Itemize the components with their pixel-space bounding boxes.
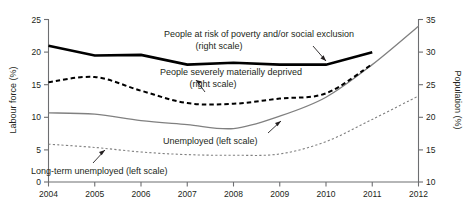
right-axis — [419, 19, 424, 182]
x-tick-2004: 2004 — [39, 189, 58, 199]
x-tick-2008: 2008 — [224, 189, 243, 199]
x-tick-2005: 2005 — [85, 189, 104, 199]
left-tick-15: 15 — [32, 80, 42, 90]
right-tick-25: 25 — [426, 80, 436, 90]
left-tick-20: 20 — [32, 47, 42, 57]
annotation-unemployed-label: Unemployed (left scale) — [163, 136, 258, 146]
x-axis — [49, 182, 419, 187]
left-axis-tick-labels: 25 20 15 10 5 0 — [32, 15, 42, 188]
x-axis-tick-labels: 2004 2005 2006 2007 2008 2009 2010 2011 … — [39, 189, 428, 199]
x-tick-2007: 2007 — [178, 189, 197, 199]
annotation-poverty-line1: People at risk of poverty and/or social … — [164, 29, 354, 39]
right-tick-15: 15 — [426, 145, 436, 155]
right-tick-10: 10 — [426, 177, 436, 187]
annotation-longterm-label: Long-term unemployed (left scale) — [31, 166, 168, 176]
right-tick-30: 30 — [426, 47, 436, 57]
annotation-poverty-line2: (right scale) — [195, 41, 242, 51]
left-axis-title: Labour force (%) — [8, 66, 18, 133]
left-tick-0: 0 — [36, 177, 41, 187]
left-tick-25: 25 — [32, 15, 42, 25]
line-chart: 25 20 15 10 5 0 Labour force (%) 35 30 2… — [0, 0, 467, 206]
right-axis-tick-labels: 35 30 25 20 15 10 — [426, 15, 436, 188]
left-tick-10: 10 — [32, 112, 42, 122]
right-axis-title: Population (%) — [453, 70, 463, 129]
x-tick-2011: 2011 — [363, 189, 382, 199]
annotation-deprived-line1: People severely materially deprived — [160, 67, 302, 77]
series-long-term-unemployed — [49, 96, 419, 155]
chart-container: 25 20 15 10 5 0 Labour force (%) 35 30 2… — [0, 0, 467, 206]
annotation-deprived: People severely materially deprived (rig… — [160, 67, 302, 89]
right-tick-35: 35 — [426, 15, 436, 25]
annotation-deprived-line2: (right scale) — [189, 79, 236, 89]
arrowhead-longterm — [99, 150, 105, 155]
left-tick-5: 5 — [36, 145, 41, 155]
right-tick-20: 20 — [426, 112, 436, 122]
x-tick-2009: 2009 — [270, 189, 289, 199]
x-tick-2010: 2010 — [317, 189, 336, 199]
x-tick-2006: 2006 — [132, 189, 151, 199]
annotation-poverty: People at risk of poverty and/or social … — [164, 29, 354, 51]
x-tick-2012: 2012 — [409, 189, 428, 199]
left-axis — [44, 19, 49, 182]
